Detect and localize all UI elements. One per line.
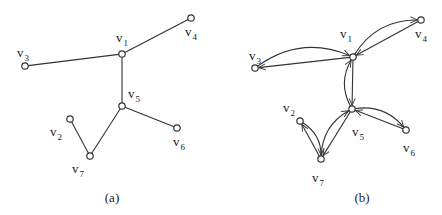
caption-b: (b) [354, 190, 369, 205]
node-label-v6: v6 [173, 134, 186, 152]
graph-figure: v1v2v3v4v5v6v7(a) v1v2v3v4v5v6v7(b) [0, 0, 442, 215]
arc-v7-to-v5 [321, 111, 349, 156]
edge-v1-v4 [125, 19, 188, 52]
node-label-v7: v7 [72, 161, 85, 179]
caption-a: (a) [105, 190, 119, 205]
arc-v5-to-v6 [355, 108, 403, 127]
node-label-v4: v4 [185, 24, 198, 42]
edge-v5-v6 [125, 107, 174, 127]
node-label-v6: v6 [403, 140, 416, 158]
arc-v1-to-v4 [355, 20, 418, 54]
node-label-v3: v3 [249, 48, 262, 66]
edge-v3-v1 [28, 54, 119, 65]
node-v6 [174, 125, 180, 131]
arc-v1-to-v3 [259, 57, 350, 67]
node-v3 [22, 63, 28, 69]
node-label-v1: v1 [340, 26, 352, 44]
node-label-v1: v1 [116, 30, 128, 48]
arc-v2-to-v7 [303, 123, 321, 156]
node-v5 [119, 103, 125, 109]
edge-v5-v7 [92, 109, 121, 154]
arc-v1-to-v5 [352, 60, 353, 105]
node-label-v4: v4 [415, 26, 428, 44]
node-label-v5: v5 [352, 124, 365, 142]
node-label-v7: v7 [312, 170, 325, 188]
node-label-v2: v2 [283, 100, 295, 118]
node-v7 [87, 153, 93, 159]
node-v2 [297, 118, 303, 124]
arc-v3-to-v1 [258, 47, 350, 66]
panel-b-directed-graph: v1v2v3v4v5v6v7(b) [249, 17, 428, 205]
edge-v7-v2 [72, 122, 89, 153]
node-v7 [318, 156, 324, 162]
node-v5 [349, 106, 355, 112]
arc-v5-to-v7 [323, 112, 350, 156]
node-v4 [418, 17, 424, 23]
node-label-v3: v3 [17, 45, 30, 63]
node-v4 [188, 15, 194, 21]
arc-v4-to-v1 [356, 22, 418, 56]
node-label-v2: v2 [50, 124, 62, 142]
arc-v5-to-v1 [344, 60, 351, 106]
node-v2 [67, 116, 73, 122]
node-label-v5: v5 [128, 86, 141, 104]
node-v1 [350, 54, 356, 60]
node-v6 [403, 127, 409, 133]
panel-a-undirected-tree: v1v2v3v4v5v6v7(a) [17, 15, 198, 205]
node-v1 [119, 51, 125, 57]
